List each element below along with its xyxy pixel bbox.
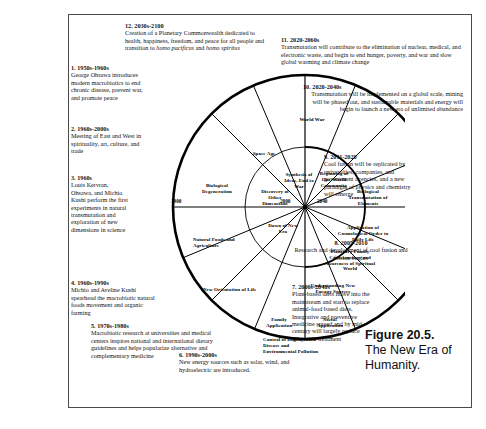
year-marker-2040: 2040 [317,198,327,204]
segment-label-space-age: Space Age [243,151,285,157]
figure-frame: 12. 2030s-2100 Creation of a Planetary C… [68,14,472,408]
segment-label-planetary-family: Planetary Family Consciousness and Aware… [321,249,379,272]
segment-label-natural-foods: Natural Foods and Agriculture [193,237,239,249]
note-2-period: 1960s-2000s [77,125,109,132]
note-12-italic2: homo spiritus [206,44,240,51]
note-3-period: 1960s [77,174,92,181]
figure-number: Figure 20.5. [365,328,457,343]
segment-label-synthesis-ideas: Synthesis of Ideas, End to War [283,172,315,189]
note-3-number: 3. [71,174,76,181]
note-2-number: 2. [71,125,76,132]
year-marker-2000: 2000 [280,198,290,204]
figure-caption: Figure 20.5. The New Era of Humanity. [365,328,457,373]
note-4: 4. 1960s-1990s Michio and Aveline Kushi … [71,279,155,316]
note-1: 1. 1950s-1960s George Ohsawa introduces … [71,64,145,101]
note-1-period: 1950s-1960s [77,64,109,71]
note-5-period: 1970s-1980s [97,322,129,329]
segment-label-biological-transmutation: Biological Transmutation of Elements [346,189,390,206]
segment-label-biological-degeneration: Biological Degeneration [195,183,239,195]
note-1-text: George Ohsawa introduces modern macrobio… [71,71,143,100]
note-4-text: Michio and Aveline Kushi spearhead the m… [71,286,155,315]
segment-label-world-war: World War [290,117,334,123]
note-11-period: 2020-2060s [290,36,319,43]
note-3: 3. 1960s Louis Kervran, Ohsawa, and Mich… [71,174,129,233]
note-1-number: 1. [71,64,76,71]
note-4-number: 4. [71,279,76,286]
segment-label-dawn-new-era: Dawn of New Era [265,223,301,235]
note-12-period: 2030s-2100 [134,22,163,29]
note-2: 2. 1960s-2000s Meeting of East and West … [71,125,143,155]
note-12-number: 12. [125,22,133,29]
figure-caption-text: The New Era of Humanity. [365,343,452,372]
segment-label-control-degenerative-disease: Control of Degenerative Disease and Envi… [263,337,319,354]
note-12: 12. 2030s-2100 Creation of a Planetary C… [125,22,271,52]
segment-label-new-energy-sources: Understanding New Energy Sources [309,283,357,295]
note-12-italic1: homo pacificus [156,44,194,51]
note-4-period: 1960s-1990s [77,279,109,286]
note-5-number: 5. [91,322,96,329]
segment-label-one-world-community: Beginning of One World Community [318,171,350,188]
note-3-text: Louis Kervran, Ohsawa, and Michio Kushi … [71,181,128,232]
segment-label-social-application: Social Application [310,317,350,329]
radial-timeline-diagram: World War Space Age Biological Degenerat… [157,59,405,369]
year-marker-1900: 1900 [171,198,181,204]
segment-label-new-orientation: New Orientation of Life [203,287,257,293]
segment-label-cosmological-order: Application of Cosmological Order to Dai… [335,225,391,242]
center-hub [303,205,307,209]
note-11-number: 11. [281,36,288,43]
segment-label-family-application: Family Application [259,317,299,329]
note-2-text: Meeting of East and West in spirituality… [71,132,141,154]
note-12-joiner: and [194,44,206,51]
